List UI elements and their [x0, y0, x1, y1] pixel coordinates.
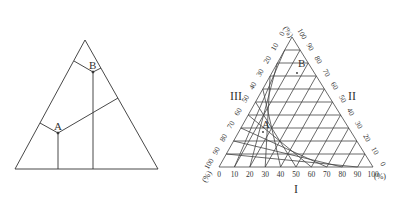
left-tick-label: 20 — [261, 54, 273, 65]
grid-line-left-parallel — [358, 154, 365, 167]
region-label-iii: III — [230, 89, 242, 103]
right-tick-label: 90 — [304, 41, 316, 52]
left-tick-label: 10 — [269, 41, 281, 52]
bottom-tick-label: 50 — [292, 170, 300, 179]
right-tick-label: 40 — [345, 106, 357, 117]
region-label-i: I — [294, 182, 298, 196]
bottom-tick-label: 80 — [338, 170, 346, 179]
right-point-b-label: B — [298, 57, 305, 69]
bottom-axis-unit: (%) — [374, 172, 386, 181]
bottom-tick-label: 0 — [217, 170, 221, 179]
bottom-tick-label: 20 — [246, 170, 254, 179]
right-tick-label: 60 — [329, 80, 341, 91]
grid-line-left-parallel — [265, 76, 316, 167]
left-tick-label: 60 — [232, 106, 244, 117]
point-b-marker — [92, 71, 94, 73]
right-tick-label: 0 — [378, 160, 388, 168]
right-tick-label: 20 — [361, 132, 373, 143]
ternary-diagrams: B A 010203040506070809010010090807060504… — [0, 0, 404, 205]
right-tick-label: 10 — [369, 145, 381, 156]
right-point-a-marker — [262, 131, 264, 133]
bottom-tick-label: 40 — [277, 170, 285, 179]
right-tick-label: 80 — [313, 54, 325, 65]
left-tick-label: 70 — [225, 119, 237, 130]
bottom-tick-label: 60 — [308, 170, 316, 179]
bottom-tick-label: 30 — [261, 170, 269, 179]
right-tick-label: 50 — [337, 93, 349, 104]
left-tick-label: 80 — [218, 132, 230, 143]
a-right-line — [58, 98, 118, 133]
bottom-tick-label: 90 — [354, 170, 362, 179]
left-tick-label: 30 — [254, 67, 266, 78]
left-axis-unit: (%) — [200, 169, 214, 184]
right-point-a-label: A — [262, 118, 270, 130]
left-triangle-outline — [15, 40, 158, 169]
left-tick-label: 90 — [210, 145, 222, 156]
right-tick-label: 100 — [295, 27, 309, 41]
left-point-b-label: B — [89, 59, 96, 71]
point-a-marker — [57, 132, 59, 134]
left-ternary-diagram — [15, 40, 158, 169]
bottom-tick-label: 10 — [231, 170, 239, 179]
left-tick-label: 40 — [247, 80, 259, 91]
left-point-a-label: A — [54, 120, 62, 132]
bottom-tick-label: 70 — [323, 170, 331, 179]
region-label-ii: II — [348, 89, 356, 103]
right-point-b-marker — [296, 72, 298, 74]
right-tick-label: 70 — [321, 67, 333, 78]
right-tick-label: 30 — [353, 119, 365, 130]
grid-line-right-parallel — [226, 154, 357, 167]
left-tick-label: 100 — [202, 156, 216, 170]
